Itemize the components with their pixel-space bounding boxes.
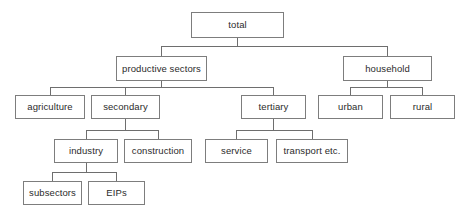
connector-productive-sectors-to-secondary <box>125 87 126 95</box>
node-tertiary[interactable]: tertiary <box>241 95 306 119</box>
node-agriculture-label: agriculture <box>27 102 72 112</box>
node-subsectors[interactable]: subsectors <box>23 181 82 205</box>
node-transport[interactable]: transport etc. <box>276 139 348 163</box>
connector-secondary-to-industry <box>86 130 87 139</box>
node-total[interactable]: total <box>191 12 284 38</box>
node-rural-label: rural <box>413 102 433 112</box>
node-transport-label: transport etc. <box>284 146 341 156</box>
connector-productive-sectors-to-agriculture <box>50 87 51 95</box>
connector-productive-sectors-bus <box>50 87 274 88</box>
connector-household-bus <box>350 87 423 88</box>
node-urban-label: urban <box>338 102 363 112</box>
node-service-label: service <box>221 146 252 156</box>
connector-tertiary-to-service <box>236 130 237 139</box>
node-agriculture[interactable]: agriculture <box>15 95 85 119</box>
node-eips-label: EIPs <box>106 188 126 198</box>
connector-total-to-household <box>387 46 388 56</box>
connector-household-to-rural <box>422 87 423 95</box>
node-industry-label: industry <box>69 146 103 156</box>
connector-productive-sectors-to-tertiary <box>273 87 274 95</box>
connector-total-to-productive-sectors <box>161 46 162 56</box>
node-construction[interactable]: construction <box>124 139 192 163</box>
node-household-label: household <box>365 63 410 73</box>
node-service[interactable]: service <box>205 139 268 163</box>
connector-industry-bus <box>52 172 117 173</box>
node-rural[interactable]: rural <box>390 95 455 119</box>
connector-secondary-bus <box>86 130 159 131</box>
node-household[interactable]: household <box>343 56 432 81</box>
node-urban[interactable]: urban <box>318 95 383 119</box>
connector-tertiary-to-transport <box>312 130 313 139</box>
node-productive-sectors-label: productive sectors <box>122 63 201 73</box>
diagram-canvas: total productive sectors household agric… <box>0 0 470 218</box>
connector-tertiary-bus <box>236 130 313 131</box>
node-construction-label: construction <box>132 146 184 156</box>
node-secondary[interactable]: secondary <box>91 95 160 119</box>
connector-household-to-urban <box>350 87 351 95</box>
node-subsectors-label: subsectors <box>29 188 76 198</box>
connector-secondary-to-construction <box>158 130 159 139</box>
connector-total-bus <box>161 46 388 47</box>
node-total-label: total <box>228 20 246 30</box>
node-eips[interactable]: EIPs <box>88 181 145 205</box>
node-productive-sectors[interactable]: productive sectors <box>116 56 207 81</box>
node-secondary-label: secondary <box>103 102 148 112</box>
node-tertiary-label: tertiary <box>259 102 289 112</box>
node-industry[interactable]: industry <box>54 139 118 163</box>
